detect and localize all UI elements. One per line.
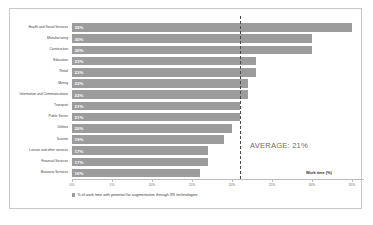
x-tick-mark	[192, 179, 193, 182]
category-label: Public Sector	[10, 115, 68, 119]
bar[interactable]: 23%	[72, 68, 256, 77]
bar[interactable]: 22%	[72, 90, 248, 99]
bar-value-label: 21%	[75, 115, 84, 120]
category-label: Health and Social Services	[10, 26, 68, 30]
bar-row: Information and Communications22%	[72, 89, 364, 100]
bar-row: Health and Social Services35%	[72, 22, 364, 33]
category-label: Information and Communications	[10, 93, 68, 97]
x-tick-label: 30%	[309, 183, 316, 187]
bar[interactable]: 21%	[72, 113, 240, 122]
bar-value-label: 17%	[75, 159, 84, 164]
bar-row: Education23%	[72, 56, 364, 67]
category-label: Leisure and other services	[10, 149, 68, 153]
bar-value-label: 20%	[75, 126, 84, 131]
x-tick-label: 0%	[70, 183, 75, 187]
x-tick-label: 10%	[149, 183, 156, 187]
x-tick-mark	[352, 179, 353, 182]
bar-value-label: 19%	[75, 137, 84, 142]
bar-value-label: 16%	[75, 171, 84, 176]
bar[interactable]: 21%	[72, 102, 240, 111]
category-label: Financial Services	[10, 160, 68, 164]
x-tick-label: 5%	[110, 183, 115, 187]
x-tick-mark	[232, 179, 233, 182]
bar-row: Financial Services17%	[72, 156, 364, 167]
bar-value-label: 23%	[75, 70, 84, 75]
x-axis-line	[72, 179, 364, 180]
category-label: Business Services	[10, 171, 68, 175]
average-reference-line	[240, 16, 241, 179]
category-label: Mining	[10, 82, 68, 86]
bar-row: Utilities20%	[72, 123, 364, 134]
category-label: Manufacturing	[10, 37, 68, 41]
legend-swatch-icon	[72, 193, 75, 196]
category-label: Utilities	[10, 126, 68, 130]
bar-value-label: 30%	[75, 36, 84, 41]
category-label: Transport	[10, 104, 68, 108]
category-label: Retail	[10, 70, 68, 74]
bar-row: Manufacturing30%	[72, 33, 364, 44]
bar-value-label: 22%	[75, 81, 84, 86]
x-tick-label: 25%	[269, 183, 276, 187]
bar-value-label: 23%	[75, 59, 84, 64]
x-tick-mark	[72, 179, 73, 182]
bar-row: Tourism19%	[72, 134, 364, 145]
bar[interactable]: 30%	[72, 46, 312, 55]
bar-row: Construction30%	[72, 44, 364, 55]
bar-value-label: 21%	[75, 103, 84, 108]
bar[interactable]: 19%	[72, 135, 224, 144]
bar[interactable]: 17%	[72, 146, 208, 155]
x-tick-label: 20%	[229, 183, 236, 187]
bar[interactable]: 16%	[72, 169, 200, 178]
bar-value-label: 22%	[75, 92, 84, 97]
bar-row: Leisure and other services17%	[72, 145, 364, 156]
category-label: Tourism	[10, 138, 68, 142]
bar-row: Mining22%	[72, 78, 364, 89]
x-axis-title: Work time (%)	[306, 170, 332, 175]
bar-value-label: 35%	[75, 25, 84, 30]
x-tick-mark	[112, 179, 113, 182]
bar[interactable]: 35%	[72, 23, 352, 32]
category-label: Education	[10, 59, 68, 63]
bar-series: Health and Social Services35%Manufacturi…	[72, 22, 364, 179]
x-tick-label: 35%	[349, 183, 356, 187]
x-tick-mark	[272, 179, 273, 182]
legend: % of work time with potential for augmen…	[72, 193, 198, 197]
bar-row: Transport21%	[72, 100, 364, 111]
x-tick-label: 15%	[189, 183, 196, 187]
legend-label: % of work time with potential for augmen…	[77, 193, 197, 197]
bar-row: Public Sector21%	[72, 112, 364, 123]
bar[interactable]: 20%	[72, 124, 232, 133]
chart-container: Health and Social Services35%Manufacturi…	[9, 8, 362, 209]
x-tick-mark	[152, 179, 153, 182]
x-tick-mark	[312, 179, 313, 182]
bar-value-label: 17%	[75, 148, 84, 153]
bar-value-label: 30%	[75, 47, 84, 52]
bar[interactable]: 17%	[72, 158, 208, 167]
bar[interactable]: 22%	[72, 79, 248, 88]
plot-area: Health and Social Services35%Manufacturi…	[72, 22, 364, 187]
bar-row: Retail23%	[72, 67, 364, 78]
bar[interactable]: 23%	[72, 57, 256, 66]
bar[interactable]: 30%	[72, 34, 312, 43]
category-label: Construction	[10, 48, 68, 52]
average-annotation-label: AVERAGE: 21%	[250, 141, 308, 150]
